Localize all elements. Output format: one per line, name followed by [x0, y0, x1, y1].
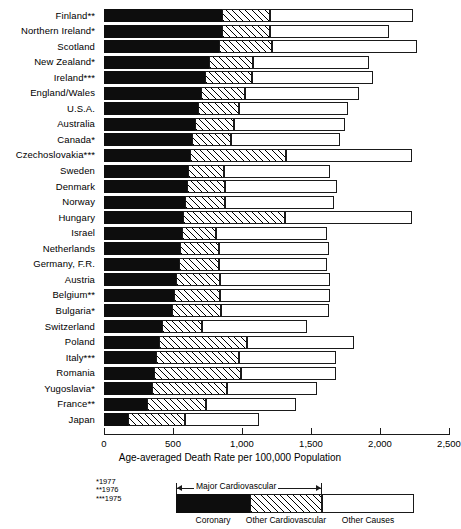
bar-segment-other-causes — [225, 180, 337, 193]
category-label: Scotland — [57, 42, 95, 52]
bar-segment-other-causes — [239, 351, 336, 364]
bar-segment-coronary — [104, 413, 128, 426]
legend-swatch-coronary — [176, 494, 250, 513]
bar-segment-other-cardiovascular — [195, 118, 234, 131]
legend-swatch-other-cardiovascular — [250, 494, 322, 513]
bar-segment-other-causes — [285, 211, 411, 224]
bar-segment-other-cardiovascular — [162, 320, 202, 333]
bar-segment-other-cardiovascular — [187, 180, 226, 193]
bar-segment-coronary — [104, 165, 188, 178]
category-label: Northern Ireland* — [21, 26, 95, 36]
bar-segment-coronary — [104, 25, 222, 38]
bar-segment-other-causes — [202, 320, 307, 333]
bar-segment-coronary — [104, 398, 147, 411]
bar-segment-coronary — [104, 71, 205, 84]
x-tick — [173, 428, 174, 435]
bar-segment-other-cardiovascular — [154, 367, 241, 380]
bar-segment-other-cardiovascular — [201, 87, 245, 100]
bracket-arrow-right-icon — [316, 485, 321, 491]
bar-segment-coronary — [104, 242, 180, 255]
bar-segment-other-causes — [245, 87, 358, 100]
category-label: Belgium** — [52, 290, 95, 300]
legend-label-coronary: Coronary — [196, 515, 231, 525]
bar-segment-other-cardiovascular — [219, 40, 271, 53]
bar-segment-other-causes — [252, 71, 373, 84]
bar-segment-other-causes — [219, 258, 327, 271]
bar-segment-coronary — [104, 304, 172, 317]
bar-segment-other-cardiovascular — [209, 56, 253, 69]
bar-segment-other-cardiovascular — [190, 149, 287, 162]
bar-segment-other-cardiovascular — [174, 289, 220, 302]
bar-segment-other-causes — [219, 242, 329, 255]
category-label: Denmark — [56, 182, 95, 192]
bar-segment-other-cardiovascular — [152, 382, 227, 395]
bar-segment-other-cardiovascular — [222, 25, 270, 38]
category-label: Finland** — [56, 11, 95, 21]
category-label: Australia — [57, 119, 95, 129]
bar-segment-other-causes — [247, 336, 355, 349]
bar-segment-coronary — [104, 382, 152, 395]
bar-segment-coronary — [104, 40, 219, 53]
x-axis-line — [104, 434, 450, 435]
bar-segment-coronary — [104, 87, 201, 100]
bar-segment-other-causes — [206, 398, 296, 411]
bar-segment-other-causes — [225, 196, 333, 209]
category-label: Italy*** — [66, 353, 95, 363]
bar-segment-other-causes — [239, 102, 349, 115]
category-label: Japan — [69, 415, 95, 425]
bar-segment-coronary — [104, 118, 195, 131]
plot-area — [104, 9, 449, 429]
x-tick-label: 1,500 — [299, 438, 323, 449]
category-label: U.S.A. — [67, 104, 95, 114]
bar-segment-other-cardiovascular — [205, 71, 251, 84]
bar-segment-coronary — [104, 180, 187, 193]
bar-segment-coronary — [104, 196, 185, 209]
bar-segment-other-cardiovascular — [182, 227, 217, 240]
bar-segment-other-cardiovascular — [185, 196, 225, 209]
category-label: Yugoslavia* — [44, 384, 95, 394]
footnote-1975: ***1975 — [96, 495, 121, 503]
bar-segment-other-causes — [220, 273, 330, 286]
bar-segment-other-cardiovascular — [176, 273, 219, 286]
bar-segment-other-causes — [270, 9, 414, 22]
category-axis-labels: Finland**Northern Ireland*ScotlandNew Ze… — [0, 9, 100, 429]
legend-bracket: Major Cardiovascular — [176, 482, 322, 494]
bar-segment-other-causes — [221, 304, 329, 317]
bar-segment-other-cardiovascular — [156, 351, 239, 364]
bar-segment-other-causes — [234, 118, 344, 131]
bar-segment-coronary — [104, 351, 156, 364]
bar-segment-coronary — [104, 9, 222, 22]
x-tick — [311, 428, 312, 435]
x-tick — [380, 428, 381, 435]
bar-segment-coronary — [104, 336, 159, 349]
bar-segment-other-cardiovascular — [180, 242, 219, 255]
bar-segment-other-cardiovascular — [147, 398, 206, 411]
bar-segment-other-cardiovascular — [128, 413, 185, 426]
category-label: New Zealand* — [34, 57, 95, 67]
category-label: Poland — [65, 337, 95, 347]
bar-segment-other-causes — [241, 367, 336, 380]
x-tick-label: 500 — [165, 438, 181, 449]
bar-segment-coronary — [104, 56, 209, 69]
bar-segment-other-causes — [272, 40, 417, 53]
legend: Major Cardiovascular Coronary Other Card… — [176, 482, 414, 529]
bar-segment-coronary — [104, 133, 192, 146]
bar-segment-coronary — [104, 149, 190, 162]
category-label: Switzerland — [45, 322, 95, 332]
bar-segment-other-cardiovascular — [183, 211, 285, 224]
category-label: Canada* — [57, 135, 95, 145]
bar-segment-coronary — [104, 102, 198, 115]
x-tick-label: 2,000 — [368, 438, 392, 449]
category-label: Norway — [62, 197, 95, 207]
x-tick-label: 0 — [101, 438, 106, 449]
category-label: Romania — [56, 368, 95, 378]
bar-segment-other-causes — [270, 25, 389, 38]
category-label: Israel — [71, 228, 95, 238]
bar-segment-other-cardiovascular — [198, 102, 239, 115]
category-label: Hungary — [58, 213, 95, 223]
bar-segment-other-causes — [220, 289, 330, 302]
bracket-arrow-left-icon — [177, 485, 182, 491]
legend-bracket-label: Major Cardiovascular — [194, 481, 278, 491]
bar-segment-coronary — [104, 320, 162, 333]
